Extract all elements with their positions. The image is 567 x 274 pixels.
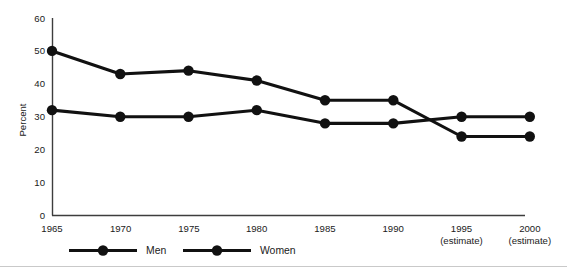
data-point: [388, 118, 398, 128]
x-tick-label: 1980: [246, 223, 267, 234]
y-tick-label: 10: [34, 177, 45, 188]
y-tick-labels: 60 50 40 30 20 10 0: [34, 13, 45, 221]
y-axis-title: Percent: [17, 103, 28, 136]
x-tick-label: 1970: [110, 223, 131, 234]
data-point: [183, 112, 193, 122]
chart-figure: 60 50 40 30 20 10 0 Percent 1965 1970 19…: [0, 0, 567, 274]
data-point: [525, 131, 535, 141]
series-men: [47, 46, 535, 142]
data-point: [252, 75, 262, 85]
x-tick-label: 1965: [41, 223, 62, 234]
data-point: [456, 131, 466, 141]
chart-legend: Men Women: [69, 245, 296, 256]
x-tick-sublabel: (estimate): [508, 235, 551, 246]
legend-label-men: Men: [146, 245, 166, 256]
data-point: [183, 65, 193, 75]
y-tick-label: 50: [34, 45, 45, 56]
data-point: [115, 112, 125, 122]
data-point: [47, 105, 57, 115]
x-tick-label: 1990: [383, 223, 404, 234]
legend-label-women: Women: [260, 245, 296, 256]
data-point: [252, 105, 262, 115]
x-tick-label: 1995: [451, 223, 472, 234]
footer-divider: [0, 266, 567, 267]
data-point: [525, 112, 535, 122]
data-point: [456, 112, 466, 122]
y-tick-label: 40: [34, 78, 45, 89]
y-tick-label: 30: [34, 111, 45, 122]
data-point: [388, 95, 398, 105]
x-tick-label: 1985: [314, 223, 335, 234]
series-layer: [47, 46, 535, 142]
x-tick-label: 1975: [178, 223, 199, 234]
data-point: [320, 95, 330, 105]
y-tick-label: 60: [34, 13, 45, 24]
data-point: [320, 118, 330, 128]
legend-marker-men: [98, 245, 108, 255]
x-tick-label: 2000: [519, 223, 540, 234]
x-tick-labels: 1965 1970 1975 1980 1985 1990 1995 (esti…: [41, 223, 551, 246]
series-women: [47, 105, 535, 129]
line-chart: 60 50 40 30 20 10 0 Percent 1965 1970 19…: [0, 0, 567, 274]
series-line-men: [52, 51, 530, 137]
y-tick-label: 20: [34, 144, 45, 155]
legend-marker-women: [212, 245, 222, 255]
data-point: [115, 69, 125, 79]
data-point: [47, 46, 57, 56]
x-tick-sublabel: (estimate): [440, 235, 483, 246]
y-tick-label: 0: [40, 210, 45, 221]
